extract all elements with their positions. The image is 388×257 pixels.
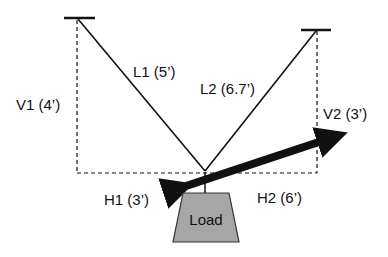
- force-arrow: [180, 137, 334, 188]
- label-load: Load: [189, 211, 222, 228]
- label-l2: L2 (6.7’): [200, 80, 255, 97]
- label-l1: L1 (5’): [133, 63, 176, 80]
- rigging-diagram: L1 (5’) L2 (6.7’) V1 (4’) V2 (3’) H1 (3’…: [0, 0, 388, 257]
- label-v1: V1 (4’): [16, 96, 60, 113]
- sling-l1: [78, 19, 205, 171]
- label-h1: H1 (3’): [104, 191, 149, 208]
- label-h2: H2 (6’): [257, 189, 302, 206]
- label-v2: V2 (3’): [323, 105, 367, 122]
